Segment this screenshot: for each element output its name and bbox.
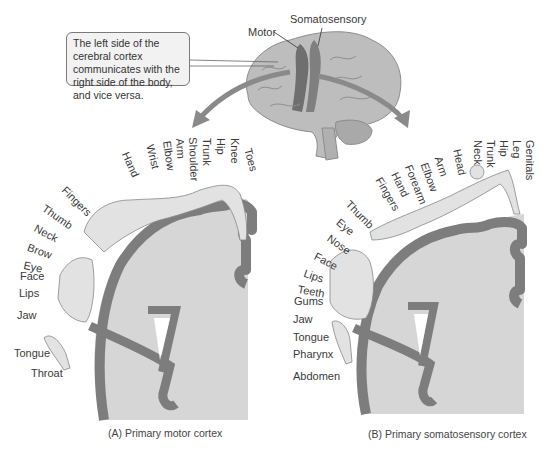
sensory-label-neck: Neck [472,140,484,165]
panel-b-caption: (B) Primary somatosensory cortex [368,428,527,440]
somatosensory-label: Somatosensory [290,13,366,25]
sensory-label-genitals: Genitals [524,140,536,180]
motor-cortex-section [44,185,252,420]
crossover-callout: The left side of the cerebral cortex com… [66,32,190,86]
motor-label-trunk: Trunk [201,138,213,166]
motor-label: Motor [248,26,276,38]
sensory-label-hip: Hip [498,140,510,157]
sensory-label-gums: Gums [294,295,323,307]
sensory-label-trunk: Trunk [485,140,497,168]
panel-a-caption: (A) Primary motor cortex [108,427,222,439]
sensory-label-pharynx: Pharynx [293,348,333,360]
motor-label-jaw: Jaw [17,309,37,321]
sensory-tongue [332,321,352,364]
figure-canvas: The left side of the cerebral cortex com… [0,0,553,452]
motor-label-lips: Lips [19,287,39,299]
motor-label-throat: Throat [31,367,63,379]
motor-face [58,258,94,322]
motor-label-hip: Hip [215,138,227,155]
sensory-head [470,165,484,179]
sensory-label-jaw: Jaw [293,313,313,325]
sensory-label-tongue: Tongue [293,331,329,343]
motor-label-face: Face [20,270,44,282]
motor-label-arm: Arm [174,138,187,159]
motor-label-shoulder: Shoulder [187,137,201,181]
sensory-label-abdomen: Abdomen [293,370,340,382]
motor-label-knee: Knee [229,138,241,164]
motor-label-tongue: Tongue [14,347,50,359]
sensory-label-leg: Leg [511,140,523,158]
